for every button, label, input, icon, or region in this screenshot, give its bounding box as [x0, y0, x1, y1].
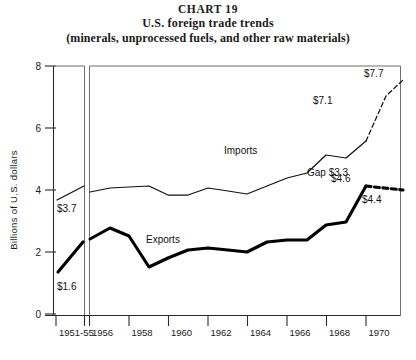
- y-tick-label-6: 6: [35, 123, 41, 134]
- exports-line: [90, 186, 366, 267]
- exports-projection-line: [366, 186, 403, 190]
- imports-final-value-label: $7.7: [364, 68, 384, 79]
- x-tick-label-1966: 1966: [290, 327, 311, 338]
- x-tick-label-1960: 1960: [171, 327, 192, 338]
- x-tick-label-1956: 1956: [92, 327, 113, 338]
- exports-end-value-label: $4.6: [331, 173, 351, 184]
- inset-panel-frame: [56, 66, 85, 316]
- inset-exports-line: [58, 242, 83, 272]
- imports-projection-line: [366, 80, 403, 141]
- chart-figure: CHART 19 U.S. foreign trade trends (mine…: [0, 0, 416, 360]
- y-tick-label-4: 4: [35, 185, 41, 196]
- main-panel-frame: [90, 66, 401, 316]
- y-tick-label-0: 0: [35, 309, 41, 320]
- chart-plot-area: 8 6 4 2 0 Billions of U.S. dollars 1951-…: [0, 0, 416, 360]
- x-tick-label-1958: 1958: [132, 327, 153, 338]
- inset-imports-value-label: $3.7: [57, 203, 77, 214]
- exports-series-label: Exports: [146, 234, 180, 245]
- imports-end-value-label: $7.1: [313, 95, 333, 106]
- y-tick-label-2: 2: [35, 247, 41, 258]
- inset-exports-value-label: $1.6: [57, 281, 77, 292]
- x-tick-label-1951-55: 1951-55: [59, 327, 94, 338]
- x-tick-label-1962: 1962: [211, 327, 232, 338]
- y-axis-title: Billions of U.S. dollars: [8, 150, 19, 250]
- x-tick-label-1968: 1968: [329, 327, 350, 338]
- inset-imports-line: [57, 186, 84, 200]
- exports-final-value-label: $4.4: [362, 194, 382, 205]
- y-tick-label-8: 8: [35, 61, 41, 72]
- x-tick-label-1964: 1964: [250, 327, 271, 338]
- imports-series-label: Imports: [224, 145, 257, 156]
- x-tick-label-1970: 1970: [369, 327, 390, 338]
